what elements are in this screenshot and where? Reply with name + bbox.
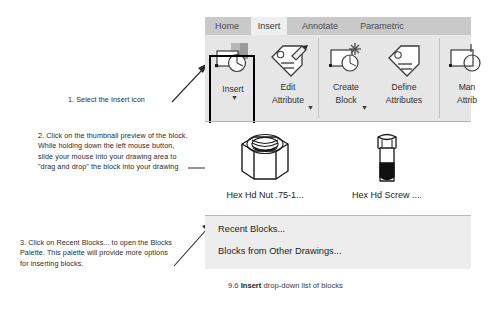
create-block-label-line1: Create [333,82,359,93]
annotation-step-2: 2. Click on the thumbnail preview of the… [38,131,190,173]
block-gallery-item[interactable]: Hex Hd Nut .75-1... [209,127,321,200]
insert-button[interactable]: Insert ▼ [211,37,255,119]
autocad-insert-ribbon-screenshot: Home Insert Annotate Parametric Insert ▼ [205,17,471,271]
tab-insert[interactable]: Insert [251,17,287,35]
insert-block-icon [211,40,255,80]
manage-attributes-label-line2: Attrib [457,95,477,106]
manage-attributes-icon [445,40,489,80]
menu-item-recent-blocks[interactable]: Recent Blocks... [218,224,285,234]
figure-caption-rest: drop-down list of blocks [261,281,342,290]
figure-caption-number: 9.6 [228,281,241,290]
edit-attribute-icon [266,40,310,80]
manage-attributes-button[interactable]: Man Attrib [441,37,489,119]
create-block-label-line2: Block [335,95,356,106]
define-attributes-icon [382,40,426,80]
tab-home[interactable]: Home [207,17,247,35]
ribbon-tab-strip: Home Insert Annotate Parametric [205,17,471,35]
menu-item-blocks-from-other-drawings[interactable]: Blocks from Other Drawings... [218,246,341,256]
figure-caption-bold-term: Insert [241,281,262,290]
define-attributes-label-line2: Attributes [386,95,422,106]
tab-parametric[interactable]: Parametric [351,17,413,35]
block-gallery-item-label: Hex Hd Nut .75-1... [209,190,321,200]
tab-annotate[interactable]: Annotate [293,17,347,35]
edit-attribute-label-line1: Edit [281,82,296,93]
block-thumbnail-gallery: Hex Hd Nut .75-1... Hex Hd Screw .... [205,123,471,215]
define-attributes-label-line1: Define [392,82,417,93]
insert-dropdown-menu: Recent Blocks... Blocks from Other Drawi… [205,215,471,269]
create-block-button[interactable]: Create Block ▼ [323,37,369,119]
hex-head-nut-thumbnail[interactable] [220,127,310,189]
block-gallery-item[interactable]: Hex Hd Screw .... [331,127,443,200]
edit-attribute-button[interactable]: Edit Attribute ▼ [261,37,315,119]
annotation-step-3: 3. Click on Recent Blocks... to open the… [20,238,172,269]
create-block-dropdown-caret-icon[interactable]: ▼ [361,105,368,111]
panel-divider-1 [318,38,319,118]
hex-head-screw-thumbnail[interactable] [342,127,432,189]
create-block-icon [324,40,368,80]
figure-caption: 9.6 Insert drop-down list of blocks [228,281,343,290]
edit-attribute-dropdown-caret-icon[interactable]: ▼ [307,105,314,111]
insert-button-label: Insert [222,84,244,95]
manage-attributes-label-line1: Man [459,82,476,93]
edit-attribute-label-line2: Attribute [272,95,304,106]
panel-divider-2 [439,38,440,118]
insert-dropdown-caret-icon[interactable]: ▼ [231,95,238,101]
define-attributes-button[interactable]: Define Attributes [373,37,435,119]
block-gallery-item-label: Hex Hd Screw .... [331,190,443,200]
ribbon-bottom-border [205,121,471,122]
ribbon-block-panel: Insert ▼ Edit Attribute ▼ [205,35,471,122]
